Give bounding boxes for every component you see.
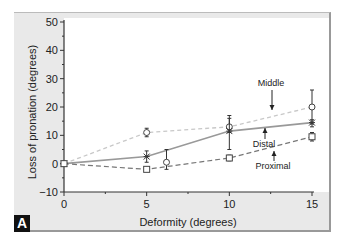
annotation-distal: Distal <box>253 139 276 149</box>
y-tick-label: 40 <box>46 44 58 56</box>
data-point-extra <box>164 159 170 165</box>
y-tick-label: 30 <box>46 73 58 85</box>
x-axis-label: Deformity (degrees) <box>139 216 236 228</box>
y-axis-label: Loss of pronation (degrees) <box>26 45 38 180</box>
panel-label: A <box>14 215 30 232</box>
data-point-middle <box>309 104 315 110</box>
y-tick-label: 0 <box>52 158 58 170</box>
y-tick-label: −10 <box>39 186 58 198</box>
annotation-proximal: Proximal <box>255 161 290 171</box>
y-tick-label: 50 <box>46 16 58 28</box>
data-point-proximal <box>226 155 232 161</box>
data-point-middle <box>144 130 150 136</box>
x-tick-label: 0 <box>61 198 67 210</box>
y-tick-label: 10 <box>46 129 58 141</box>
y-tick-label: 20 <box>46 101 58 113</box>
data-point-proximal <box>61 161 67 167</box>
x-tick-label: 10 <box>223 198 235 210</box>
data-point-proximal <box>309 134 315 140</box>
x-tick-label: 5 <box>144 198 150 210</box>
x-tick-label: 15 <box>306 198 318 210</box>
chart: −1001020304050051015Deformity (degrees)L… <box>0 0 345 244</box>
annotation-middle: Middle <box>258 78 285 88</box>
data-point-proximal <box>144 166 150 172</box>
